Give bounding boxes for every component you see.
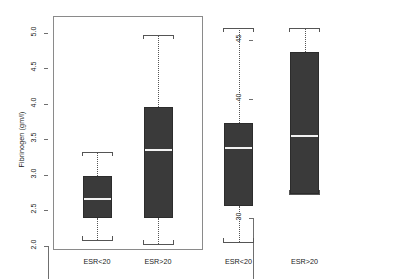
whisker-cap-upper (143, 35, 174, 36)
whisker-cap-lower-right (319, 190, 320, 194)
whisker-cap-upper-left (143, 35, 144, 39)
x-axis-group-label: ESR>20 (145, 257, 172, 266)
panel-gamma-globulin: Gamma globulin (gm/l) 30354045 ESR<20ESR… (207, 0, 413, 279)
boxplot-box-group (0, 0, 207, 279)
whisker-cap-upper (289, 28, 320, 29)
boxplot-box-group (207, 0, 413, 279)
x-axis-group-label: ESR<20 (225, 257, 252, 266)
x-axis-group-label: ESR>20 (291, 257, 318, 266)
whisker-cap-upper-right (319, 28, 320, 32)
whisker-cap-lower (143, 244, 174, 245)
boxplot-figure: Fibrinogen (gm/l) 2.02.53.03.54.04.55.0 … (0, 0, 413, 279)
whisker-cap-lower-right (173, 240, 174, 244)
whisker-lower (158, 218, 159, 244)
whisker-upper (305, 28, 306, 52)
median-line (291, 135, 318, 137)
whisker-cap-upper-right (173, 35, 174, 39)
whisker-upper (158, 35, 159, 108)
box-iqr (144, 107, 173, 217)
median-line (145, 149, 172, 151)
whisker-cap-upper-left (289, 28, 290, 32)
whisker-cap-lower-left (143, 240, 144, 244)
whisker-cap-lower (289, 194, 320, 195)
box-iqr (290, 52, 319, 194)
x-axis-group-label: ESR<20 (84, 257, 111, 266)
panel-fibrinogen: Fibrinogen (gm/l) 2.02.53.03.54.04.55.0 … (0, 0, 207, 279)
